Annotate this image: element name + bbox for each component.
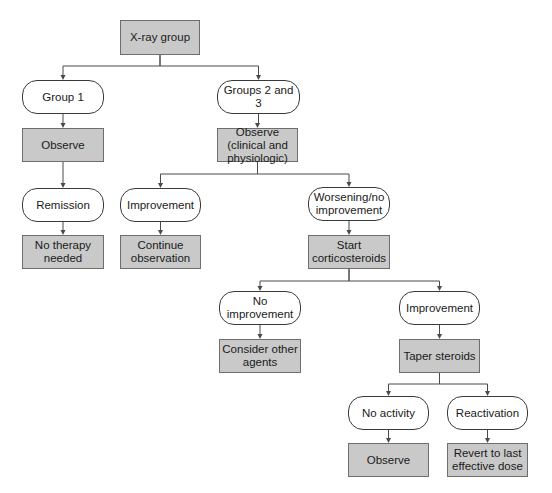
node-observe-final: Observe bbox=[348, 443, 429, 477]
node-label: Improvement bbox=[406, 302, 473, 315]
node-groups-2-and-3: Groups 2 and 3 bbox=[217, 80, 300, 114]
node-label: Remission bbox=[36, 199, 90, 212]
node-label: Improvement bbox=[127, 199, 194, 212]
node-consider-other-agents: Consider other agents bbox=[219, 339, 301, 373]
node-revert-dose: Revert to last effective dose bbox=[447, 443, 528, 477]
node-continue-observation: Continue observation bbox=[120, 235, 201, 269]
connector-taper-to-no_activity bbox=[389, 373, 440, 392]
node-label: Continue observation bbox=[123, 239, 198, 265]
node-label: No therapy needed bbox=[25, 239, 101, 265]
connector-xray-to-groups23 bbox=[160, 55, 259, 76]
node-label: Taper steroids bbox=[403, 350, 475, 363]
node-remission: Remission bbox=[22, 188, 104, 222]
node-label: Reactivation bbox=[456, 407, 519, 420]
connector-start_cortico-to-no_improvement bbox=[260, 269, 349, 287]
node-worsening: Worsening/no improvement bbox=[308, 187, 390, 221]
node-no-improvement: No improvement bbox=[219, 291, 301, 325]
connector-start_cortico-to-improvement2 bbox=[349, 269, 440, 287]
node-xray-group: X-ray group bbox=[120, 20, 200, 55]
node-label: No activity bbox=[362, 407, 415, 420]
node-no-therapy-needed: No therapy needed bbox=[22, 235, 104, 269]
node-observe-clinical: Observe (clinical and physiologic) bbox=[217, 128, 298, 162]
node-label: Groups 2 and 3 bbox=[220, 84, 297, 110]
connector-xray-to-group1 bbox=[63, 55, 160, 76]
node-observe: Observe bbox=[22, 128, 104, 162]
node-label: Observe (clinical and physiologic) bbox=[220, 126, 295, 165]
node-label: Consider other agents bbox=[222, 343, 298, 369]
flowchart: X-ray group Group 1 Groups 2 and 3 Obser… bbox=[0, 0, 552, 493]
node-improvement-2: Improvement bbox=[399, 291, 480, 325]
node-no-activity: No activity bbox=[348, 396, 429, 430]
node-label: Group 1 bbox=[42, 91, 84, 104]
node-improvement: Improvement bbox=[120, 188, 201, 222]
connector-taper-to-reactivation bbox=[440, 373, 488, 392]
node-label: Observe bbox=[367, 454, 410, 467]
node-start-corticosteroids: Start corticosteroids bbox=[308, 235, 390, 269]
node-label: No improvement bbox=[222, 295, 298, 321]
node-taper-steroids: Taper steroids bbox=[399, 339, 480, 373]
node-label: Observe bbox=[41, 139, 84, 152]
node-label: X-ray group bbox=[130, 31, 190, 44]
node-label: Worsening/no improvement bbox=[311, 191, 387, 217]
connector-observe_clin-to-improvement1 bbox=[161, 162, 258, 184]
node-reactivation: Reactivation bbox=[447, 396, 528, 430]
node-label: Revert to last effective dose bbox=[450, 447, 525, 473]
node-group-1: Group 1 bbox=[22, 80, 104, 114]
node-label: Start corticosteroids bbox=[311, 239, 387, 265]
connector-observe_clin-to-worsening bbox=[258, 162, 350, 183]
